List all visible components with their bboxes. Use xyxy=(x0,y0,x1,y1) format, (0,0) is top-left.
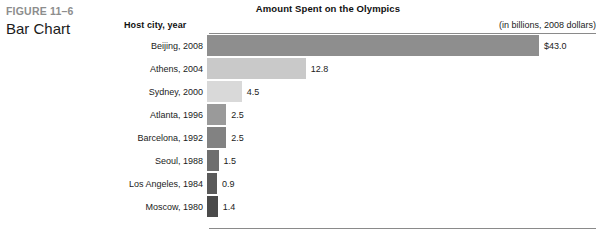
bar-row: Beijing, 2008$43.0 xyxy=(118,34,598,57)
bar-category-label: Sydney, 2000 xyxy=(118,87,207,97)
bar-value-label: 2.5 xyxy=(231,133,244,143)
bar-category-label: Seoul, 1988 xyxy=(118,156,207,166)
bar-value-label: 12.8 xyxy=(311,64,329,74)
bar-row: Atlanta, 19962.5 xyxy=(118,103,598,126)
bar-row: Athens, 200412.8 xyxy=(118,57,598,80)
bar-category-label: Los Angeles, 1984 xyxy=(118,179,207,189)
bar-row: Los Angeles, 19840.9 xyxy=(118,172,598,195)
bar-track: 2.5 xyxy=(207,126,598,149)
bar-value-label: 1.4 xyxy=(223,202,236,212)
bar-track: 2.5 xyxy=(207,103,598,126)
bar-value-label: 2.5 xyxy=(231,110,244,120)
bar-track: 1.5 xyxy=(207,149,598,172)
bar-track: 0.9 xyxy=(207,172,598,195)
bar-rows: Beijing, 2008$43.0Athens, 200412.8Sydney… xyxy=(118,34,598,218)
bar-row: Seoul, 19881.5 xyxy=(118,149,598,172)
bar-chart: Amount Spent on the Olympics Host city, … xyxy=(118,0,598,236)
bar-track: $43.0 xyxy=(207,34,598,57)
bar xyxy=(207,81,242,102)
bar-row: Sydney, 20004.5 xyxy=(118,80,598,103)
bar-value-label: 1.5 xyxy=(224,156,237,166)
bottom-rule xyxy=(209,228,596,229)
chart-title: Amount Spent on the Olympics xyxy=(118,3,538,14)
bar xyxy=(207,173,217,194)
figure-caption: FIGURE 11–6 Bar Chart xyxy=(6,5,114,38)
bar-value-label: $43.0 xyxy=(544,41,567,51)
bar-value-label: 0.9 xyxy=(222,179,235,189)
bar-category-label: Athens, 2004 xyxy=(118,64,207,74)
bar-track: 12.8 xyxy=(207,57,598,80)
category-column-header: Host city, year xyxy=(124,20,186,30)
bar-track: 1.4 xyxy=(207,195,598,218)
bar xyxy=(207,35,539,56)
bar-row: Moscow, 19801.4 xyxy=(118,195,598,218)
bar-track: 4.5 xyxy=(207,80,598,103)
bar-row: Barcelona, 19922.5 xyxy=(118,126,598,149)
bar xyxy=(207,104,226,125)
bar xyxy=(207,58,306,79)
bar-category-label: Barcelona, 1992 xyxy=(118,133,207,143)
bar-category-label: Beijing, 2008 xyxy=(118,41,207,51)
bar xyxy=(207,127,226,148)
bar xyxy=(207,150,219,171)
bar-value-label: 4.5 xyxy=(247,87,260,97)
bar-category-label: Moscow, 1980 xyxy=(118,202,207,212)
bar xyxy=(207,196,218,217)
units-note: (in billions, 2008 dollars) xyxy=(499,20,596,30)
bar-category-label: Atlanta, 1996 xyxy=(118,110,207,120)
figure-number: FIGURE 11–6 xyxy=(6,5,114,18)
figure-title: Bar Chart xyxy=(6,19,114,38)
